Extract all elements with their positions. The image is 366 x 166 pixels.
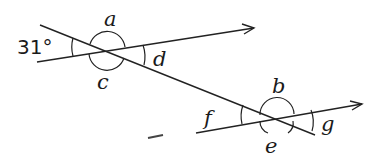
bottom-parallel-line [196, 101, 362, 133]
angle-a-label: a [104, 7, 117, 31]
given-angle-label: 31° [17, 35, 52, 59]
angle-diagram: 31° a c d b f g e [0, 0, 366, 166]
stray-mark [148, 135, 163, 138]
angle-e-label: e [265, 134, 277, 158]
intersection-2-arcs [241, 98, 313, 133]
angle-c-label: c [97, 70, 109, 94]
angle-g-label: g [321, 112, 334, 136]
angle-b-label: b [272, 74, 285, 98]
angle-f-label: f [202, 106, 215, 130]
angle-d-label: d [153, 47, 166, 71]
